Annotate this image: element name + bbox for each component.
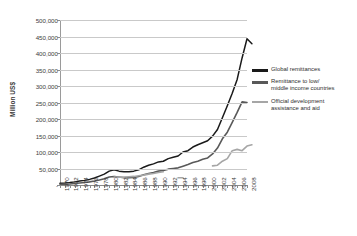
y-tick-mark — [57, 20, 60, 21]
x-tick-label: 2002 — [220, 177, 227, 191]
x-tick-mark — [149, 185, 150, 188]
gridline — [60, 20, 247, 21]
x-tick-label: 1970 — [63, 177, 70, 191]
plot-area — [60, 20, 247, 185]
legend-label: Remittance to low/ middle income countri… — [271, 78, 335, 92]
y-tick-mark — [57, 152, 60, 153]
x-tick-mark — [208, 185, 209, 188]
y-tick-label: - — [16, 182, 58, 189]
y-tick-label: 450,000 — [16, 33, 58, 40]
y-tick-mark — [57, 37, 60, 38]
gridline — [60, 152, 247, 153]
x-tick-mark — [168, 185, 169, 188]
x-tick-mark — [109, 185, 110, 188]
legend-swatch — [252, 69, 268, 72]
y-tick-mark — [57, 70, 60, 71]
legend-label: Global remittances — [271, 66, 320, 73]
x-tick-label: 1992 — [171, 177, 178, 191]
x-tick-mark — [227, 185, 228, 188]
y-tick-label: 350,000 — [16, 66, 58, 73]
series-line — [213, 145, 252, 166]
x-tick-label: 2004 — [230, 177, 237, 191]
x-tick-mark — [99, 185, 100, 188]
legend-swatch — [252, 101, 268, 104]
x-tick-mark — [80, 185, 81, 188]
gridline — [60, 70, 247, 71]
x-tick-mark — [247, 185, 248, 188]
gridline — [60, 119, 247, 120]
x-tick-label: 2006 — [240, 177, 247, 191]
y-tick-mark — [57, 103, 60, 104]
y-tick-label: 500,000 — [16, 17, 58, 24]
x-axis-tick-labels: 1970197219741976197819801982198419861988… — [60, 190, 247, 236]
gridline — [60, 103, 247, 104]
gridline — [60, 136, 247, 137]
x-tick-label: 2008 — [250, 177, 257, 191]
y-tick-label: 50,000 — [16, 165, 58, 172]
x-tick-mark — [119, 185, 120, 188]
y-tick-label: 250,000 — [16, 99, 58, 106]
x-tick-label: 1972 — [72, 177, 79, 191]
legend-swatch — [252, 81, 268, 84]
legend-label: Official development assistance and aid — [271, 98, 324, 112]
y-tick-label: 300,000 — [16, 83, 58, 90]
x-tick-label: 1988 — [151, 177, 158, 191]
y-tick-mark — [57, 86, 60, 87]
series-line — [60, 102, 247, 185]
x-tick-mark — [178, 185, 179, 188]
legend-item[interactable]: Global remittances — [252, 66, 356, 73]
x-tick-label: 1974 — [82, 177, 89, 191]
legend-item[interactable]: Remittance to low/ middle income countri… — [252, 78, 356, 92]
x-tick-label: 1998 — [200, 177, 207, 191]
gridline — [60, 86, 247, 87]
x-tick-mark — [158, 185, 159, 188]
x-tick-label: 1980 — [112, 177, 119, 191]
y-tick-label: 400,000 — [16, 50, 58, 57]
x-tick-mark — [90, 185, 91, 188]
x-tick-mark — [60, 185, 61, 188]
gridline — [60, 169, 247, 170]
x-tick-label: 1986 — [141, 177, 148, 191]
x-tick-label: 1994 — [181, 177, 188, 191]
x-tick-mark — [139, 185, 140, 188]
gridline — [60, 53, 247, 54]
x-tick-label: 2000 — [210, 177, 217, 191]
gridline — [60, 37, 247, 38]
x-tick-mark — [237, 185, 238, 188]
y-tick-mark — [57, 119, 60, 120]
x-tick-label: 1978 — [102, 177, 109, 191]
y-tick-label: 100,000 — [16, 149, 58, 156]
x-tick-mark — [129, 185, 130, 188]
x-tick-mark — [217, 185, 218, 188]
x-tick-label: 1984 — [131, 177, 138, 191]
y-tick-mark — [57, 169, 60, 170]
y-tick-label: 150,000 — [16, 132, 58, 139]
chart-legend: Global remittancesRemittance to low/ mid… — [252, 66, 356, 117]
y-axis-tick-labels: 500,000450,000400,000350,000300,000250,0… — [14, 0, 58, 236]
y-tick-label: 200,000 — [16, 116, 58, 123]
remittances-line-chart: Million US$ 500,000450,000400,000350,000… — [0, 0, 357, 236]
x-tick-label: 1976 — [92, 177, 99, 191]
x-tick-mark — [188, 185, 189, 188]
x-tick-label: 1990 — [161, 177, 168, 191]
y-tick-mark — [57, 53, 60, 54]
x-tick-label: 1982 — [122, 177, 129, 191]
y-tick-mark — [57, 136, 60, 137]
x-tick-label: 1996 — [191, 177, 198, 191]
legend-item[interactable]: Official development assistance and aid — [252, 98, 356, 112]
